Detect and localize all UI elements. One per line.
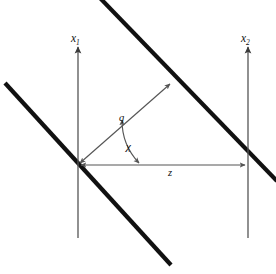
vector-label-q: q xyxy=(119,113,124,124)
baseline-label-z: z xyxy=(168,168,172,179)
lower-diagonal-line xyxy=(5,83,171,265)
axis-label-x1: x1 xyxy=(71,33,80,47)
upper-diagonal-line xyxy=(100,0,276,181)
axis-label-x2-sub: 2 xyxy=(246,38,250,47)
figure-canvas: x1 x2 q χ z xyxy=(0,0,276,274)
axis-label-x2: x2 xyxy=(241,33,250,47)
axis-label-x1-sub: 1 xyxy=(76,38,80,47)
caption-strip xyxy=(0,262,276,274)
diagram-svg xyxy=(0,0,276,274)
angle-label-chi: χ xyxy=(126,141,131,152)
vector-q-arrow xyxy=(80,84,170,163)
